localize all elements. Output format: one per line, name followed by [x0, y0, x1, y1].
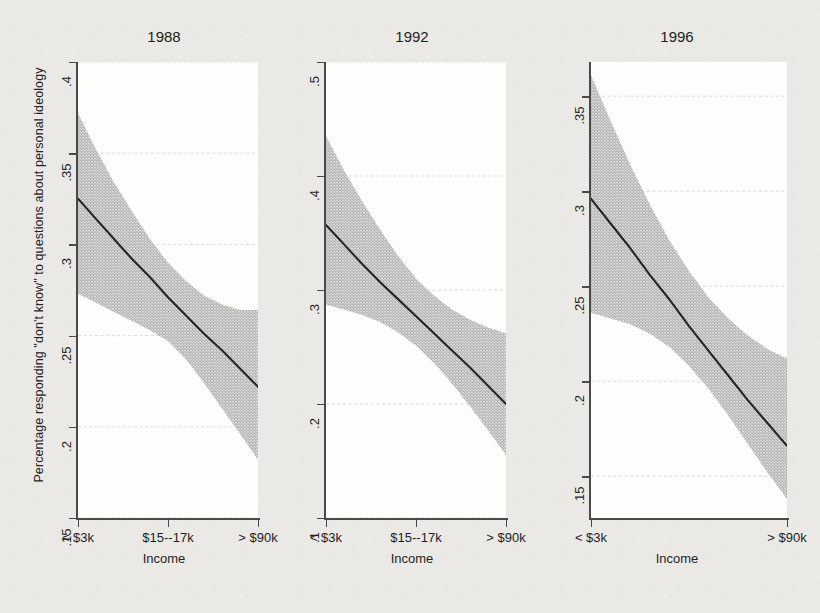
panel-1992: 1992 .1.2.3.4.5< $3k$15--17k> $90kIncome — [290, 0, 534, 613]
y-axis-line — [324, 62, 326, 518]
y-axis-line — [76, 62, 78, 518]
x-axis-title: Income — [42, 551, 286, 566]
x-axis-title: Income — [555, 551, 799, 566]
y-tick-label: .3 — [307, 290, 322, 330]
x-tick — [591, 520, 592, 527]
x-tick — [506, 520, 507, 527]
y-tick-label: .35 — [59, 153, 74, 193]
y-tick-label: .2 — [572, 381, 587, 421]
x-axis-title: Income — [290, 551, 534, 566]
x-tick-label: > $90k — [238, 530, 277, 545]
figure-canvas: Percentage responding "don't know" to qu… — [0, 0, 820, 613]
plot-svg — [591, 62, 787, 518]
y-tick-label: .3 — [572, 191, 587, 231]
y-tick-label: .15 — [572, 476, 587, 516]
x-tick-label: $15--17k — [142, 530, 193, 545]
x-tick-label: < $3k — [310, 530, 342, 545]
y-tick-label: .35 — [572, 96, 587, 136]
plot-area — [78, 62, 258, 518]
x-tick-label: > $90k — [767, 530, 806, 545]
x-tick-label: < $3k — [62, 530, 94, 545]
y-tick-label: .3 — [59, 244, 74, 284]
x-tick — [326, 520, 327, 527]
plot-svg — [326, 62, 506, 518]
panel-title: 1988 — [42, 28, 286, 45]
plot-svg — [78, 62, 258, 518]
panel-1996: 1996 .15.2.25.3.35< $3k> $90kIncome — [555, 0, 799, 613]
x-tick-label: $15--17k — [390, 530, 441, 545]
y-axis-line — [589, 62, 591, 518]
confidence-band — [78, 113, 258, 460]
y-tick-label: .4 — [59, 62, 74, 102]
confidence-band — [591, 75, 787, 499]
y-tick-label: .2 — [307, 404, 322, 444]
confidence-band — [326, 136, 506, 455]
x-tick — [168, 520, 169, 527]
x-tick — [416, 520, 417, 527]
y-tick-label: .2 — [59, 426, 74, 466]
x-tick — [787, 520, 788, 527]
x-tick-label: < $3k — [575, 530, 607, 545]
plot-area — [591, 62, 787, 518]
x-tick-label: > $90k — [486, 530, 525, 545]
y-tick-label: .25 — [59, 335, 74, 375]
x-axis-line — [589, 518, 789, 520]
x-tick — [78, 520, 79, 527]
plot-area — [326, 62, 506, 518]
panel-title: 1996 — [555, 28, 799, 45]
y-tick-label: .25 — [572, 286, 587, 326]
y-tick-label: .5 — [307, 62, 322, 102]
y-tick-label: .4 — [307, 176, 322, 216]
panel-1988: 1988 .15.2.25.3.35.4< $3k$15--17k> $90kI… — [42, 0, 286, 613]
x-tick — [258, 520, 259, 527]
panel-title: 1992 — [290, 28, 534, 45]
